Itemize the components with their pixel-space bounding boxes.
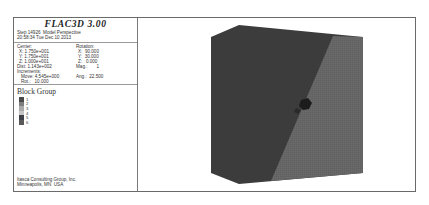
legend-item-6: 6 bbox=[19, 120, 28, 125]
block-model-render bbox=[138, 18, 417, 193]
company-location: Minneapolis, MN USA bbox=[17, 182, 63, 187]
swatch-label: 6 bbox=[26, 120, 28, 125]
model-viewport[interactable] bbox=[138, 18, 415, 191]
divider bbox=[14, 42, 137, 43]
legend-panel: FLAC3D 3.00 Step 14926 Model Perspective… bbox=[14, 18, 138, 191]
mag-value: Mag.: 1 bbox=[76, 64, 99, 69]
app-title: FLAC3D 3.00 bbox=[14, 19, 137, 29]
block-group-title: Block Group bbox=[17, 87, 56, 96]
divider bbox=[14, 84, 137, 85]
plot-frame: FLAC3D 3.00 Step 14926 Model Perspective… bbox=[13, 17, 416, 192]
ang-value: Ang.: 22.500 bbox=[76, 74, 103, 79]
date-info: 20:58:34 Tue Dec 10 2013 bbox=[17, 35, 71, 40]
swatch bbox=[19, 120, 24, 125]
